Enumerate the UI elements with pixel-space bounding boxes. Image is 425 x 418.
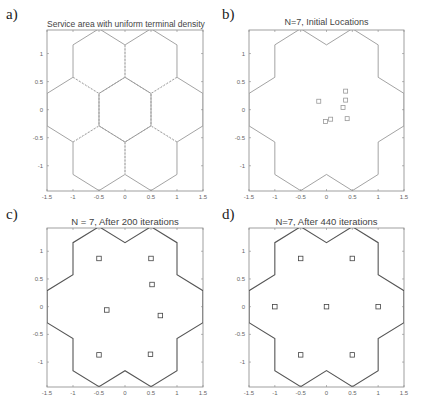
y-tick-label: 0.5 xyxy=(35,276,44,282)
y-tick-label: -0.5 xyxy=(33,135,44,141)
terminal-marker xyxy=(350,353,355,358)
x-tick-label: -0.5 xyxy=(94,194,105,200)
terminal-marker xyxy=(329,117,333,121)
x-tick-label: -1.5 xyxy=(244,194,255,200)
x-tick-label: -0.5 xyxy=(94,390,105,396)
terminal-marker xyxy=(105,308,110,313)
x-tick-label: 0 xyxy=(325,390,329,396)
y-tick-label: 1 xyxy=(40,51,44,57)
x-tick-label: 0.5 xyxy=(348,390,357,396)
x-tick-label: 0 xyxy=(123,390,127,396)
y-tick-label: 0 xyxy=(242,304,246,310)
x-tick-label: -0.5 xyxy=(295,390,306,396)
y-tick-label: -1 xyxy=(38,359,44,365)
y-tick-label: -1 xyxy=(240,359,246,365)
terminal-marker xyxy=(344,89,348,93)
x-tick-label: 1.5 xyxy=(199,390,208,396)
x-tick-label: 1 xyxy=(175,390,179,396)
axes-frame xyxy=(47,228,203,387)
y-tick-label: 1 xyxy=(242,51,246,57)
x-tick-label: 1 xyxy=(376,194,380,200)
y-tick-label: 0 xyxy=(40,107,44,113)
x-tick-label: -1.5 xyxy=(42,390,53,396)
terminal-marker xyxy=(323,119,327,123)
panel-d-plot: -1.5-1-0.500.511.510.50-0.5-1 xyxy=(235,227,409,396)
x-tick-label: 0 xyxy=(123,194,127,200)
x-tick-label: 1.5 xyxy=(400,194,409,200)
x-tick-label: 1.5 xyxy=(400,390,409,396)
x-tick-label: -1 xyxy=(272,194,278,200)
terminal-marker xyxy=(150,282,155,287)
terminal-marker xyxy=(273,304,278,309)
x-tick-label: -0.5 xyxy=(295,194,306,200)
chart-figure: -1.5-1-0.500.511.510.50-0.5-1-1.5-1-0.50… xyxy=(0,0,425,418)
y-tick-label: 1 xyxy=(242,248,246,254)
y-tick-label: 1 xyxy=(40,248,44,254)
terminal-marker xyxy=(324,304,329,309)
terminal-marker xyxy=(341,105,345,109)
terminal-marker xyxy=(350,256,355,261)
axes-frame xyxy=(249,30,404,191)
y-tick-label: 0 xyxy=(242,107,246,113)
terminal-marker xyxy=(298,256,303,261)
x-tick-label: -1.5 xyxy=(244,390,255,396)
x-tick-label: -1.5 xyxy=(42,194,53,200)
x-tick-label: 1.5 xyxy=(199,194,208,200)
terminal-marker xyxy=(158,313,163,318)
terminal-marker xyxy=(317,99,321,103)
x-tick-label: -1 xyxy=(272,390,278,396)
y-tick-label: 0 xyxy=(40,304,44,310)
panel-a-plot: -1.5-1-0.500.511.510.50-0.5-1 xyxy=(33,29,208,200)
x-tick-label: 1 xyxy=(175,194,179,200)
y-tick-label: -0.5 xyxy=(235,135,246,141)
terminal-marker xyxy=(376,304,381,309)
x-tick-label: -1 xyxy=(70,390,76,396)
x-tick-label: 0 xyxy=(325,194,329,200)
x-tick-label: 0.5 xyxy=(147,390,156,396)
terminal-marker xyxy=(298,353,303,358)
terminal-marker xyxy=(149,256,154,261)
y-tick-label: -1 xyxy=(38,163,44,169)
x-tick-label: -1 xyxy=(70,194,76,200)
terminal-marker xyxy=(148,352,153,357)
y-tick-label: 0.5 xyxy=(35,79,44,85)
x-tick-label: 0.5 xyxy=(147,194,156,200)
y-tick-label: 0.5 xyxy=(237,79,246,85)
y-tick-label: 0.5 xyxy=(237,276,246,282)
y-tick-label: -1 xyxy=(240,163,246,169)
terminal-marker xyxy=(344,98,348,102)
terminal-marker xyxy=(97,353,102,358)
x-tick-label: 1 xyxy=(376,390,380,396)
service-area-boundary xyxy=(249,29,404,191)
panel-b-plot: -1.5-1-0.500.511.510.50-0.5-1 xyxy=(235,29,409,200)
y-tick-label: -0.5 xyxy=(235,331,246,337)
terminal-marker xyxy=(97,256,102,261)
y-tick-label: -0.5 xyxy=(33,331,44,337)
service-area-boundary xyxy=(47,227,203,387)
terminal-marker xyxy=(345,117,349,121)
panel-c-plot: -1.5-1-0.500.511.510.50-0.5-1 xyxy=(33,227,208,396)
x-tick-label: 0.5 xyxy=(348,194,357,200)
